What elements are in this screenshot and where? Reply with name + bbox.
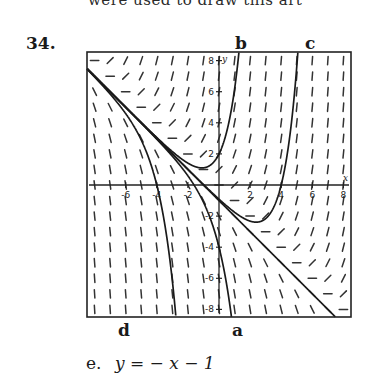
slope-mark bbox=[154, 104, 160, 110]
slope-mark bbox=[170, 103, 174, 111]
slope-mark bbox=[343, 103, 344, 111]
slope-mark bbox=[203, 88, 205, 96]
slope-mark bbox=[312, 119, 313, 127]
slope-mark bbox=[125, 227, 126, 235]
slope-mark bbox=[296, 150, 297, 158]
slope-mark bbox=[187, 56, 188, 64]
slope-mark bbox=[265, 134, 266, 142]
slope-mark bbox=[171, 88, 174, 96]
slope-mark bbox=[249, 290, 251, 298]
slope-mark bbox=[141, 290, 142, 298]
slope-mark bbox=[94, 290, 95, 298]
slope-mark bbox=[109, 165, 110, 173]
slope-mark bbox=[234, 134, 236, 142]
slope-mark bbox=[343, 72, 344, 80]
slope-mark bbox=[203, 56, 204, 64]
slope-mark bbox=[311, 228, 314, 236]
slope-mark bbox=[264, 259, 268, 267]
x-tick-label: 6 bbox=[309, 190, 315, 200]
y-tick-label: 4 bbox=[208, 118, 214, 128]
slope-mark bbox=[123, 73, 129, 79]
slope-mark bbox=[108, 103, 112, 111]
slope-mark bbox=[310, 306, 314, 314]
slope-mark bbox=[125, 243, 126, 251]
slope-mark bbox=[342, 243, 344, 251]
slope-mark bbox=[343, 134, 344, 142]
slope-mark bbox=[312, 165, 313, 173]
slope-mark bbox=[249, 134, 251, 142]
slope-mark bbox=[249, 259, 252, 267]
slope-mark bbox=[311, 212, 313, 220]
slope-mark bbox=[327, 228, 329, 236]
slope-mark bbox=[250, 72, 251, 80]
slope-mark bbox=[279, 275, 283, 283]
slope-mark bbox=[141, 259, 142, 267]
slope-mark bbox=[340, 291, 346, 297]
slope-mark bbox=[342, 259, 345, 267]
slope-mark bbox=[110, 290, 111, 298]
x-tick-label: -6 bbox=[121, 190, 130, 200]
slope-field-plot: -6-4-224688642-2-4-6-8xy bbox=[0, 0, 366, 389]
slope-mark bbox=[155, 88, 159, 96]
slope-mark bbox=[187, 290, 188, 298]
slope-mark bbox=[109, 150, 111, 158]
slope-mark bbox=[187, 88, 189, 96]
x-tick-label: 2 bbox=[247, 190, 253, 200]
slope-mark bbox=[327, 119, 328, 127]
slope-mark bbox=[156, 243, 157, 251]
slope-mark bbox=[312, 150, 313, 158]
slope-mark bbox=[281, 150, 282, 158]
slope-mark bbox=[249, 150, 251, 158]
slope-mark bbox=[155, 72, 158, 80]
slope-mark bbox=[187, 212, 189, 220]
slope-mark bbox=[110, 212, 111, 220]
slope-mark bbox=[187, 228, 189, 236]
slope-mark bbox=[312, 134, 313, 142]
slope-mark bbox=[140, 165, 142, 173]
x-tick-label: 8 bbox=[341, 190, 347, 200]
slope-mark bbox=[94, 134, 96, 142]
slope-mark bbox=[343, 119, 344, 127]
slope-mark bbox=[125, 259, 126, 267]
slope-mark bbox=[328, 56, 329, 64]
slope-mark bbox=[141, 305, 142, 313]
slope-mark bbox=[93, 103, 96, 111]
x-tick-label: -2 bbox=[183, 190, 192, 200]
slope-mark bbox=[234, 259, 236, 267]
slope-mark bbox=[156, 290, 157, 298]
slope-mark bbox=[110, 243, 111, 251]
slope-mark bbox=[296, 119, 297, 127]
axes: -6-4-224688642-2-4-6-8xy bbox=[89, 54, 349, 314]
slope-mark bbox=[281, 103, 282, 111]
slope-mark bbox=[328, 103, 329, 111]
slope-mark bbox=[138, 89, 144, 95]
slope-mark bbox=[327, 150, 328, 158]
slope-mark bbox=[280, 305, 282, 313]
slope-mark bbox=[94, 165, 95, 173]
slope-mark bbox=[125, 290, 126, 298]
slope-mark bbox=[172, 56, 174, 64]
slope-mark bbox=[234, 119, 236, 127]
slope-mark bbox=[110, 274, 111, 282]
slope-mark bbox=[327, 165, 328, 173]
y-tick-label: -6 bbox=[205, 273, 214, 283]
slope-mark bbox=[124, 119, 128, 127]
slope-mark bbox=[265, 290, 267, 298]
slope-mark bbox=[234, 56, 235, 64]
slope-mark bbox=[94, 305, 95, 313]
slope-mark bbox=[250, 103, 251, 111]
slope-mark bbox=[234, 103, 235, 111]
answer-equation: e. y = − x − 1 bbox=[86, 353, 215, 373]
slope-mark bbox=[343, 88, 344, 96]
slope-mark bbox=[185, 135, 191, 141]
slope-mark bbox=[326, 259, 330, 267]
slope-mark bbox=[327, 134, 328, 142]
slope-mark bbox=[93, 88, 97, 96]
slope-mark bbox=[141, 227, 142, 235]
slope-mark bbox=[141, 274, 142, 282]
slope-mark bbox=[328, 72, 329, 80]
slope-mark bbox=[295, 305, 298, 313]
slope-mark bbox=[125, 274, 126, 282]
slope-mark bbox=[94, 212, 95, 220]
slope-mark bbox=[265, 56, 266, 64]
